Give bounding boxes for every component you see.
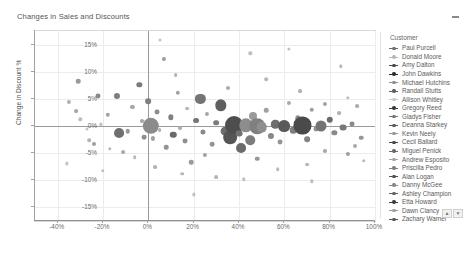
data-point-bubble[interactable]	[362, 159, 366, 163]
data-point-bubble[interactable]	[92, 142, 96, 146]
legend-item[interactable]: Ashley Champion	[385, 189, 469, 198]
data-point-bubble[interactable]	[133, 156, 137, 160]
data-point-bubble[interactable]	[158, 39, 161, 42]
data-point-bubble[interactable]	[162, 57, 166, 61]
data-point-bubble[interactable]	[264, 108, 269, 113]
data-point-bubble[interactable]	[182, 139, 187, 144]
data-point-bubble[interactable]	[337, 111, 341, 115]
data-point-bubble[interactable]	[121, 150, 125, 154]
legend-item[interactable]: Andrew Esposito	[385, 155, 469, 164]
data-point-bubble[interactable]	[200, 129, 205, 134]
data-point-bubble[interactable]	[65, 162, 68, 165]
data-point-bubble[interactable]	[213, 120, 219, 126]
data-point-bubble[interactable]	[346, 152, 350, 156]
data-point-bubble[interactable]	[264, 77, 268, 81]
data-point-bubble[interactable]	[256, 122, 267, 133]
legend-item[interactable]: Donald Moore	[385, 53, 469, 62]
minus-icon[interactable]	[452, 16, 459, 18]
data-point-bubble[interactable]	[114, 128, 124, 138]
data-point-bubble[interactable]	[298, 89, 302, 93]
data-point-bubble[interactable]	[178, 126, 182, 130]
data-point-bubble[interactable]	[88, 138, 92, 142]
data-point-bubble[interactable]	[193, 118, 199, 124]
legend-item[interactable]: John Dawkins	[385, 70, 469, 79]
legend-item[interactable]: Michael Hutchins	[385, 78, 469, 87]
legend-item[interactable]: Cecil Ballard	[385, 138, 469, 147]
legend-item[interactable]: Kevin Neely	[385, 129, 469, 138]
data-point-bubble[interactable]	[255, 156, 260, 161]
data-point-bubble[interactable]	[209, 142, 214, 147]
data-point-bubble[interactable]	[355, 105, 359, 109]
data-point-bubble[interactable]	[323, 102, 327, 106]
data-point-bubble[interactable]	[126, 129, 131, 134]
data-point-bubble[interactable]	[353, 144, 357, 148]
data-point-bubble[interactable]	[155, 110, 160, 115]
data-point-bubble[interactable]	[101, 169, 104, 172]
data-point-bubble[interactable]	[108, 147, 111, 150]
data-point-bubble[interactable]	[164, 145, 169, 150]
data-point-bubble[interactable]	[305, 163, 309, 167]
data-point-bubble[interactable]	[287, 101, 291, 105]
legend-item-list[interactable]: Paul PurcellDonald MooreAmy DaltonJohn D…	[385, 44, 469, 223]
data-point-bubble[interactable]	[236, 130, 243, 137]
data-point-bubble[interactable]	[176, 91, 180, 95]
data-point-bubble[interactable]	[76, 79, 81, 84]
data-point-bubble[interactable]	[185, 107, 189, 111]
data-point-bubble[interactable]	[340, 124, 347, 131]
legend-item[interactable]: Randall Stutts	[385, 87, 469, 96]
data-point-bubble[interactable]	[268, 133, 274, 139]
data-point-bubble[interactable]	[74, 109, 78, 113]
data-point-bubble[interactable]	[151, 136, 155, 140]
data-point-bubble[interactable]	[246, 135, 256, 145]
data-point-bubble[interactable]	[168, 115, 173, 120]
data-point-bubble[interactable]	[276, 168, 280, 172]
legend-item[interactable]: Alan Logan	[385, 172, 469, 181]
data-point-bubble[interactable]	[141, 135, 146, 140]
data-point-bubble[interactable]	[332, 130, 337, 135]
legend-item[interactable]: Priscilla Pedro	[385, 164, 469, 173]
legend-item[interactable]: Miguel Penick	[385, 147, 469, 156]
legend-item[interactable]: Deanna Starkey	[385, 121, 469, 130]
data-point-bubble[interactable]	[277, 140, 282, 145]
data-point-bubble[interactable]	[158, 128, 162, 132]
data-point-bubble[interactable]	[195, 94, 205, 104]
data-point-bubble[interactable]	[339, 65, 342, 68]
data-point-bubble[interactable]	[137, 82, 142, 87]
data-point-bubble[interactable]	[294, 117, 311, 134]
data-point-bubble[interactable]	[309, 107, 314, 112]
data-point-bubble[interactable]	[142, 118, 158, 134]
data-point-bubble[interactable]	[67, 100, 71, 104]
data-point-bubble[interactable]	[236, 143, 246, 153]
data-point-bubble[interactable]	[181, 172, 185, 176]
legend-item[interactable]: Gregory Reed	[385, 104, 469, 113]
legend-item[interactable]: Paul Purcell	[385, 44, 469, 53]
data-point-bubble[interactable]	[215, 100, 226, 111]
data-point-bubble[interactable]	[105, 113, 109, 117]
legend-item[interactable]: Danny McGee	[385, 181, 469, 190]
data-point-bubble[interactable]	[287, 47, 290, 50]
data-point-bubble[interactable]	[130, 105, 134, 109]
data-point-bubble[interactable]	[359, 136, 364, 141]
data-point-bubble[interactable]	[192, 193, 195, 196]
chevron-down-icon[interactable]: ▼	[453, 209, 463, 218]
data-point-bubble[interactable]	[326, 117, 332, 123]
data-point-bubble[interactable]	[226, 86, 230, 90]
chevron-up-icon[interactable]: ▲	[442, 209, 452, 218]
data-point-bubble[interactable]	[278, 120, 290, 132]
data-point-bubble[interactable]	[170, 131, 176, 137]
data-point-bubble[interactable]	[350, 121, 355, 126]
legend-item[interactable]: Allison Whitley	[385, 95, 469, 104]
data-point-bubble[interactable]	[189, 160, 194, 165]
data-point-bubble[interactable]	[304, 136, 310, 142]
data-point-bubble[interactable]	[205, 112, 209, 116]
legend-item[interactable]: Gladys Fisher	[385, 112, 469, 121]
data-point-bubble[interactable]	[79, 118, 82, 121]
data-point-bubble[interactable]	[145, 98, 151, 104]
data-point-bubble[interactable]	[203, 153, 207, 157]
legend-item[interactable]: Amy Dalton	[385, 61, 469, 70]
legend-scrollbar[interactable]: ▲ ▼	[442, 209, 463, 218]
data-point-bubble[interactable]	[153, 165, 157, 169]
data-point-bubble[interactable]	[114, 93, 120, 99]
data-point-bubble[interactable]	[249, 52, 252, 55]
data-point-bubble[interactable]	[315, 120, 326, 131]
